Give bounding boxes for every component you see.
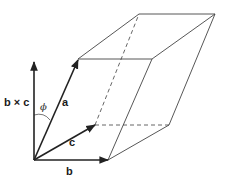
edge-a-to-ac xyxy=(78,14,139,59)
label-bxc: b × c xyxy=(4,96,29,108)
label-phi: ϕ xyxy=(40,101,47,112)
edge-b-to-ab xyxy=(108,59,152,160)
vector-c-arrow xyxy=(34,125,95,160)
label-c: c xyxy=(69,136,75,148)
visible-edges xyxy=(78,14,215,160)
parallelepiped-diagram: b × c a c b ϕ xyxy=(0,0,227,179)
hidden-edges xyxy=(95,14,169,125)
phi-angle-arc xyxy=(34,114,50,120)
label-a: a xyxy=(62,96,69,108)
label-b: b xyxy=(66,165,73,177)
edge-b-to-bc xyxy=(108,125,169,160)
